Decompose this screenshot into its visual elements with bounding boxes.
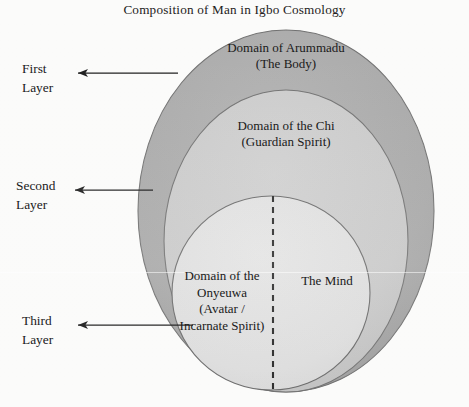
onyeuwa-line-1: Domain of the <box>180 268 265 285</box>
chi-line-1: Domain of the Chi <box>237 118 334 134</box>
side-label-second-layer: Second Layer <box>16 176 55 214</box>
side-label-first-layer: First Layer <box>22 59 53 97</box>
label-domain-onyeuwa: Domain of the Onyeuwa (Avatar / Incarnat… <box>180 268 265 334</box>
third-layer-line-1: Third <box>22 311 53 330</box>
onyeuwa-line-4: Incarnate Spirit) <box>180 318 265 335</box>
label-domain-chi: Domain of the Chi (Guardian Spirit) <box>237 118 334 149</box>
side-label-third-layer: Third Layer <box>22 311 53 349</box>
third-layer-line-2: Layer <box>22 330 53 349</box>
onyeuwa-line-2: Onyeuwa <box>180 285 265 302</box>
chi-line-2: (Guardian Spirit) <box>237 134 334 150</box>
onyeuwa-line-3: (Avatar / <box>180 301 265 318</box>
mind-text: The Mind <box>301 273 353 289</box>
first-layer-line-1: First <box>22 59 53 78</box>
arummadu-line-2: (The Body) <box>227 56 345 72</box>
label-domain-arummadu: Domain of Arummadu (The Body) <box>227 40 345 71</box>
first-layer-line-2: Layer <box>22 78 53 97</box>
label-the-mind: The Mind <box>301 273 353 289</box>
arummadu-line-1: Domain of Arummadu <box>227 40 345 56</box>
second-layer-line-2: Layer <box>16 195 55 214</box>
second-layer-line-1: Second <box>16 176 55 195</box>
igbo-cosmology-diagram: Composition of Man in Igbo Cosmology <box>0 0 469 407</box>
